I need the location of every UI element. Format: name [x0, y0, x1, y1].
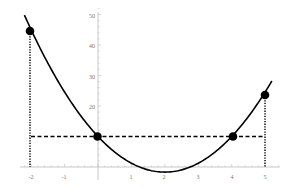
data-point: [261, 91, 270, 100]
x-tick-label: 3: [197, 174, 200, 180]
y-tick-label: 40: [89, 43, 95, 49]
data-point: [229, 132, 238, 141]
x-tick-label: -1: [62, 174, 67, 180]
y-tick-label: 30: [89, 74, 95, 80]
guide-lines: [30, 31, 265, 167]
data-point: [26, 27, 35, 36]
x-tick-label: 5: [264, 174, 267, 180]
parabola-curve: [24, 15, 271, 172]
y-tick-label: 20: [89, 104, 95, 110]
x-minor-ticks: [24, 164, 278, 167]
parabola-chart: -2 -1 1 2 3 4 5 20 30 40 50: [0, 0, 290, 187]
x-tick-label: 2: [163, 174, 166, 180]
axes: [20, 8, 280, 180]
y-tick-labels: 20 30 40 50: [89, 13, 95, 110]
data-point: [93, 132, 102, 141]
y-tick-label: 50: [89, 13, 95, 19]
x-tick-labels: -2 -1 1 2 3 4 5: [29, 174, 267, 180]
x-tick-label: -2: [29, 174, 34, 180]
x-tick-label: 1: [130, 174, 133, 180]
data-points: [26, 27, 270, 141]
x-tick-label: 4: [231, 174, 234, 180]
